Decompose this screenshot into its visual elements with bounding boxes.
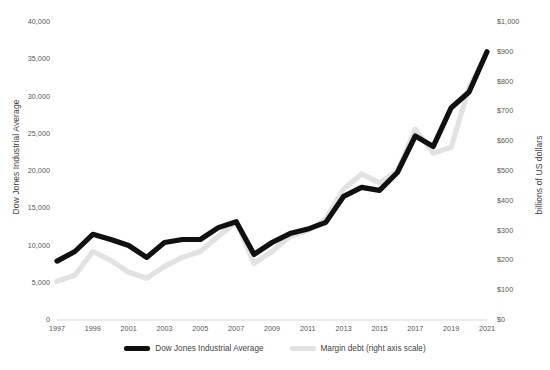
chart-legend: Dow Jones Industrial AverageMargin debt …	[0, 344, 550, 353]
legend-item[interactable]: Margin debt (right axis scale)	[290, 344, 426, 353]
legend-label: Dow Jones Industrial Average	[155, 344, 263, 353]
legend-swatch	[124, 346, 150, 351]
series-line-margin-debt	[57, 52, 487, 281]
legend-swatch	[290, 346, 316, 351]
series-line-dow-jones	[57, 52, 487, 261]
legend-label: Margin debt (right axis scale)	[321, 344, 426, 353]
plot-area	[0, 0, 550, 370]
chart-container: Dow Jones Industrial Average billions of…	[0, 0, 550, 370]
legend-item[interactable]: Dow Jones Industrial Average	[124, 344, 263, 353]
